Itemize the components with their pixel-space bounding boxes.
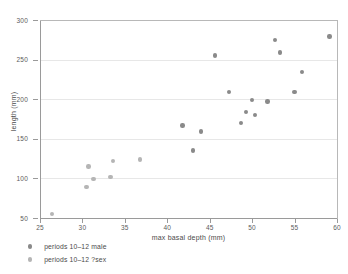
data-point — [86, 164, 90, 168]
y-axis-tick-label: 100 — [4, 175, 28, 182]
gridline-horizontal — [40, 99, 337, 100]
x-axis-tick-label: 35 — [113, 224, 137, 232]
data-point — [111, 159, 115, 163]
legend-item[interactable]: periods 10–12 male — [25, 240, 185, 253]
data-point — [180, 123, 184, 127]
x-axis-tick — [82, 219, 83, 223]
data-point — [138, 157, 142, 161]
legend-marker-icon — [28, 244, 32, 248]
x-axis-tick-label: 40 — [155, 224, 179, 232]
data-point — [327, 34, 331, 38]
x-axis-tick — [125, 219, 126, 223]
data-point — [199, 129, 203, 133]
y-axis-tick-label: 250 — [4, 56, 28, 63]
data-point — [227, 90, 231, 94]
x-axis-tick-label: 45 — [198, 224, 222, 232]
data-point — [239, 121, 243, 125]
data-point — [244, 110, 248, 114]
scatter-plot-figure: length (mm) 5010015020025030025303540455… — [0, 0, 348, 274]
x-axis-tick — [252, 219, 253, 223]
x-axis-tick — [337, 219, 338, 223]
x-axis-tick-label: 55 — [283, 224, 307, 232]
data-point — [278, 50, 282, 54]
y-axis-tick-label: 300 — [4, 17, 28, 24]
legend-item[interactable]: periods 10–12 ?sex — [25, 253, 185, 266]
y-axis-tick — [33, 60, 38, 61]
data-point — [191, 148, 195, 152]
gridline-horizontal — [40, 139, 337, 140]
legend-item-label: periods 10–12 ?sex — [44, 256, 106, 263]
data-point — [50, 212, 54, 216]
data-point — [273, 38, 277, 42]
data-point — [265, 99, 269, 103]
data-point — [213, 53, 217, 57]
data-point — [91, 177, 95, 181]
data-point — [108, 175, 112, 179]
x-axis-tick-label: 30 — [70, 224, 94, 232]
legend-item-label: periods 10–12 male — [44, 243, 106, 250]
data-point — [253, 113, 257, 117]
legend-marker-icon — [28, 257, 32, 261]
x-axis-tick-label: 50 — [240, 224, 264, 232]
data-point — [292, 90, 296, 94]
x-axis-tick — [167, 219, 168, 223]
legend: periods 10–12 maleperiods 10–12 ?sex — [25, 240, 185, 266]
y-axis-tick-label: 150 — [4, 135, 28, 142]
plot-right-edge — [337, 20, 338, 219]
x-axis-tick — [40, 219, 41, 223]
x-axis-tick-label: 60 — [325, 224, 348, 232]
y-axis-tick — [33, 99, 38, 100]
plot-top-edge — [40, 20, 338, 21]
y-axis-tick-label: 200 — [4, 96, 28, 103]
y-axis-tick — [33, 139, 38, 140]
x-axis-line — [40, 218, 338, 219]
data-point — [300, 70, 304, 74]
y-axis-title: length (mm) — [10, 67, 17, 157]
x-axis-tick-label: 25 — [28, 224, 52, 232]
x-axis-tick — [210, 219, 211, 223]
data-point — [84, 185, 88, 189]
plot-area — [40, 20, 337, 218]
y-axis-tick — [33, 218, 38, 219]
gridline-horizontal — [40, 178, 337, 179]
data-point — [250, 98, 254, 102]
y-axis-tick — [33, 20, 38, 21]
y-axis-line — [40, 20, 41, 219]
y-axis-tick — [33, 178, 38, 179]
gridline-horizontal — [40, 60, 337, 61]
y-axis-tick-label: 50 — [4, 215, 28, 222]
x-axis-tick — [295, 219, 296, 223]
